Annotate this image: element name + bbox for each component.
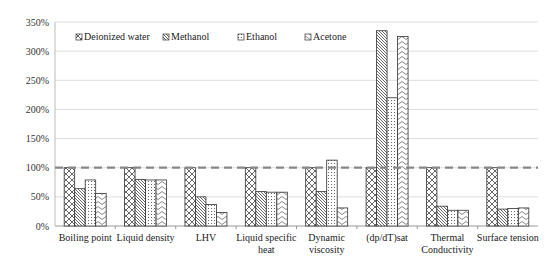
legend-swatch [305,34,311,40]
x-category-label: Thermal [431,232,465,243]
x-category-label: heat [258,244,275,255]
legend-swatch [238,34,244,40]
bar-acetone [458,210,469,226]
y-tick-label: 0% [36,221,49,232]
x-category-label: Liquid specific [236,232,297,243]
bar-deionized-water [426,168,437,226]
bar-acetone [216,213,227,226]
bar-acetone [277,192,288,226]
legend-label: Deionized water [84,31,150,42]
bar-ethanol [266,192,277,226]
x-category-label: Conductivity [421,244,473,255]
y-tick-label: 100% [26,162,49,173]
bar-methanol [135,179,146,226]
y-tick-label: 350% [26,17,49,28]
x-category-label: Surface tension [477,232,539,243]
bar-deionized-water [306,168,317,226]
bar-deionized-water [125,168,136,226]
bar-acetone [156,180,167,226]
bar-deionized-water [64,168,75,226]
bar-ethanol [146,180,157,226]
bar-ethanol [85,180,96,226]
y-tick-label: 50% [31,191,49,202]
bar-acetone [518,208,529,226]
bar-deionized-water [366,168,377,226]
x-category-label: viscosity [309,244,345,255]
bar-methanol [256,192,267,226]
legend: Deionized waterMethanolEthanolAcetone [76,31,347,42]
bar-ethanol [206,204,217,226]
bar-ethanol [508,209,519,226]
x-category-label: Liquid density [117,232,175,243]
y-tick-label: 250% [26,75,49,86]
legend-swatch [163,34,169,40]
bar-deionized-water [245,168,256,226]
bar-methanol [497,209,508,226]
legend-label: Methanol [171,31,210,42]
legend-swatch [76,34,82,40]
bar-acetone [337,208,348,226]
bar-acetone [398,37,409,226]
bar-methanol [377,31,388,226]
legend-label: Ethanol [246,31,277,42]
bar-acetone [96,193,107,226]
y-tick-label: 200% [26,104,49,115]
y-axis-ticks: 0%50%100%150%200%250%300%350% [26,17,49,232]
bar-ethanol [327,160,338,226]
y-tick-label: 300% [26,46,49,57]
bar-chart: 0%50%100%150%200%250%300%350% Boiling po… [0,0,559,268]
bar-ethanol [387,98,398,226]
x-category-label: Boiling point [59,232,112,243]
bar-methanol [316,192,327,226]
bar-deionized-water [487,168,498,226]
x-category-label: (dp/dT)sat [366,232,408,244]
legend-label: Acetone [313,31,347,42]
x-axis-labels: Boiling pointLiquid densityLHVLiquid spe… [59,232,539,255]
y-tick-label: 150% [26,133,49,144]
bar-methanol [437,206,448,226]
x-category-label: LHV [196,232,217,243]
x-category-label: Dynamic [308,232,345,243]
bar-methanol [195,197,206,226]
bar-ethanol [447,210,458,226]
bar-deionized-water [185,168,196,226]
bar-methanol [75,189,86,226]
